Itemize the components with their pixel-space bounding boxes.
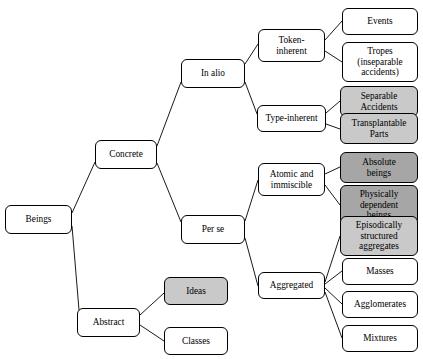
node-events[interactable]: Events [342, 8, 418, 35]
edge-aggregated-to-episodically [325, 236, 340, 282]
node-label-events: Events [367, 16, 392, 26]
edge-aggregated-to-agglomerates [325, 288, 342, 304]
node-label-abstract: Abstract [93, 317, 125, 327]
node-abstract[interactable]: Abstract [77, 308, 140, 337]
node-label-tropes: Tropes (inseparable accidents) [357, 46, 402, 77]
edge-per-se-to-aggregated [245, 238, 258, 286]
edge-abstract-to-ideas [140, 293, 164, 315]
node-mixtures[interactable]: Mixtures [342, 325, 418, 352]
edge-per-se-to-atomic [245, 180, 258, 221]
node-label-per-se: Per se [202, 224, 224, 234]
edge-token-inherent-to-events [325, 21, 342, 40]
node-type-inherent[interactable]: Type-inherent [257, 105, 326, 132]
node-absolute[interactable]: Absolute beings [340, 152, 418, 183]
node-label-classes: Classes [182, 336, 210, 346]
edge-concrete-to-in-alio [157, 82, 181, 146]
node-episodically[interactable]: Episodically structured aggregates [340, 216, 418, 256]
node-in-alio[interactable]: In alio [181, 59, 245, 88]
node-label-absolute: Absolute beings [362, 157, 396, 178]
node-label-masses: Masses [366, 266, 393, 276]
node-label-mixtures: Mixtures [363, 333, 397, 343]
node-token-inherent[interactable]: Token- inherent [258, 29, 325, 62]
node-label-separable: Separable Accidents [360, 91, 397, 112]
node-transplantable[interactable]: Transplantable Parts [340, 113, 418, 144]
node-label-in-alio: In alio [201, 68, 225, 78]
edge-in-alio-to-token-inherent [245, 44, 258, 64]
node-classes[interactable]: Classes [164, 327, 228, 355]
edge-beings-to-concrete [72, 162, 95, 213]
node-label-atomic: Atomic and immiscible [270, 169, 314, 190]
node-label-aggregated: Aggregated [270, 280, 313, 290]
node-label-transplantable: Transplantable Parts [352, 118, 407, 139]
node-label-type-inherent: Type-inherent [265, 113, 317, 123]
node-masses[interactable]: Masses [342, 258, 418, 285]
node-aggregated[interactable]: Aggregated [258, 272, 325, 299]
edge-abstract-to-classes [140, 325, 164, 341]
node-per-se[interactable]: Per se [181, 215, 245, 244]
edge-beings-to-abstract [72, 226, 79, 310]
edge-atomic-to-absolute [325, 167, 340, 174]
edge-type-inherent-to-transplantable [326, 124, 340, 129]
node-label-ideas: Ideas [186, 286, 206, 296]
edge-type-inherent-to-separable [326, 101, 340, 113]
node-label-concrete: Concrete [109, 149, 143, 159]
node-agglomerates[interactable]: Agglomerates [342, 291, 418, 318]
node-tropes[interactable]: Tropes (inseparable accidents) [342, 42, 418, 82]
edge-aggregated-to-masses [325, 271, 342, 284]
node-beings[interactable]: Beings [5, 205, 72, 234]
taxonomy-diagram: BeingsConcreteAbstractIn alioPer seIdeas… [0, 0, 423, 359]
edge-token-inherent-to-tropes [325, 51, 342, 62]
node-label-token-inherent: Token- inherent [276, 35, 306, 56]
edge-aggregated-to-mixtures [325, 292, 342, 338]
edge-atomic-to-physically [325, 185, 340, 205]
node-label-agglomerates: Agglomerates [354, 299, 406, 309]
node-label-beings: Beings [26, 214, 52, 224]
edge-concrete-to-per-se [157, 163, 181, 222]
node-concrete[interactable]: Concrete [95, 140, 157, 169]
node-label-episodically: Episodically structured aggregates [356, 220, 402, 251]
edge-in-alio-to-type-inherent [245, 82, 257, 114]
node-ideas[interactable]: Ideas [164, 277, 228, 305]
node-atomic[interactable]: Atomic and immiscible [258, 163, 325, 196]
